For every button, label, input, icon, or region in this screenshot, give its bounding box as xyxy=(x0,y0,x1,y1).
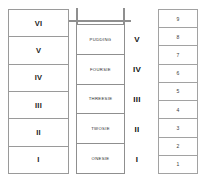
numbered-column: 9 8 7 6 5 4 3 2 1 xyxy=(158,9,198,174)
ladder-crossbar-icon xyxy=(69,20,131,22)
right-cell-9: 9 xyxy=(159,10,197,28)
middle-cell-foursie: FOURSIE xyxy=(77,55,124,85)
middle-numeral-2: II xyxy=(128,114,146,144)
left-cell-6: VI xyxy=(9,10,68,37)
right-cell-8: 8 xyxy=(159,28,197,46)
right-cell-6: 6 xyxy=(159,65,197,83)
middle-numeral-4: IV xyxy=(128,54,146,84)
middle-numeral-5: V xyxy=(128,24,146,54)
left-cell-4: IV xyxy=(9,65,68,92)
right-cell-3: 3 xyxy=(159,119,197,137)
right-cell-1: 1 xyxy=(159,156,197,173)
right-cell-4: 4 xyxy=(159,101,197,119)
ladder-mast-left-icon xyxy=(76,8,78,25)
middle-cell-threesie: THREESIE xyxy=(77,85,124,115)
middle-numeral-1: I xyxy=(128,144,146,174)
middle-cell-pudding: PUDDING xyxy=(77,25,124,55)
middle-cell-twosie: TWOSIE xyxy=(77,114,124,144)
left-cell-2: II xyxy=(9,119,68,146)
right-cell-7: 7 xyxy=(159,46,197,64)
middle-numeral-3: III xyxy=(128,84,146,114)
roman-numeral-column: VI V IV III II I xyxy=(8,9,69,174)
middle-numeral-stack: V IV III II I xyxy=(128,24,146,174)
right-cell-5: 5 xyxy=(159,83,197,101)
left-cell-3: III xyxy=(9,92,68,119)
ladder-mast-right-icon xyxy=(123,8,125,25)
diagram-root: VI V IV III II I PUDDING FOURSIE THREESI… xyxy=(0,0,206,183)
middle-cell-onesie: ONESIE xyxy=(77,144,124,173)
right-cell-2: 2 xyxy=(159,138,197,156)
word-label-column: PUDDING FOURSIE THREESIE TWOSIE ONESIE xyxy=(76,24,125,174)
left-cell-5: V xyxy=(9,37,68,64)
left-cell-1: I xyxy=(9,147,68,173)
